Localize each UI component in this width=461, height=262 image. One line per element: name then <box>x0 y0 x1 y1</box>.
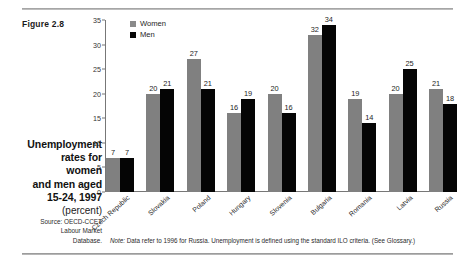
bar-value-label: 14 <box>365 113 373 122</box>
bar-groups: 7720212721161920163234191420252118 <box>106 20 457 192</box>
figure-number-label: Figure 2.8 <box>22 19 64 29</box>
bar-value-label: 32 <box>311 25 319 34</box>
bar-value-label: 19 <box>351 89 359 98</box>
bar-women: 7 <box>106 158 120 192</box>
x-axis-label: Romania <box>348 194 373 218</box>
note-prefix: Note: <box>110 237 125 244</box>
bar-group: 2025 <box>389 20 417 192</box>
bar-women: 20 <box>268 94 282 192</box>
y-tick-mark <box>102 192 105 193</box>
x-axis-label: Russia <box>433 194 453 213</box>
y-tick-mark <box>102 93 105 94</box>
y-tick-mark <box>102 20 105 21</box>
bar-value-label: 16 <box>284 103 292 112</box>
bar-men: 14 <box>362 123 376 192</box>
bar-men: 18 <box>443 104 457 192</box>
x-axis-label: Bulgaria <box>309 194 332 216</box>
bar-value-label: 7 <box>125 148 129 157</box>
x-axis-label: Czech Republic <box>90 194 131 231</box>
y-tick-mark <box>102 142 105 143</box>
bar-women: 32 <box>308 35 322 192</box>
bar-chart: 05101520253035 Women Men 772021272116192… <box>88 14 458 229</box>
figure-page: Figure 2.8 Unemployment rates for women … <box>0 0 461 262</box>
bar-group: 3234 <box>308 20 336 192</box>
bar-value-label: 20 <box>149 84 157 93</box>
x-axis-labels: Czech RepublicSlovakiaPolandHungarySlove… <box>106 194 457 240</box>
bar-men: 21 <box>201 89 215 192</box>
bar-women: 27 <box>187 59 201 192</box>
bar-men: 16 <box>282 113 296 192</box>
x-axis-label: Slovakia <box>147 194 171 217</box>
bar-value-label: 21 <box>204 79 212 88</box>
bar-value-label: 20 <box>392 84 400 93</box>
bar-men: 25 <box>403 69 417 192</box>
bar-value-label: 18 <box>446 94 454 103</box>
note-text: Data refer to 1996 for Russia. Unemploym… <box>125 237 415 244</box>
bar-men: 19 <box>241 99 255 192</box>
y-tick-mark <box>102 44 105 45</box>
figure-note: Note: Data refer to 1996 for Russia. Une… <box>110 237 455 244</box>
bar-women: 16 <box>227 113 241 192</box>
bar-value-label: 16 <box>230 103 238 112</box>
bar-men: 34 <box>322 25 336 192</box>
x-axis-label: Hungary <box>228 194 252 217</box>
bar-group: 77 <box>106 20 134 192</box>
bar-men: 7 <box>120 158 134 192</box>
source-line-3: Database. <box>6 237 102 245</box>
bar-group: 2721 <box>187 20 215 192</box>
bar-value-label: 25 <box>406 59 414 68</box>
bar-value-label: 19 <box>244 89 252 98</box>
bar-women: 21 <box>429 89 443 192</box>
bar-women: 20 <box>389 94 403 192</box>
bar-men: 21 <box>160 89 174 192</box>
bar-value-label: 21 <box>163 79 171 88</box>
bar-women: 20 <box>146 94 160 192</box>
bar-value-label: 21 <box>432 79 440 88</box>
bar-value-label: 20 <box>270 84 278 93</box>
x-axis-label: Latvia <box>395 194 413 212</box>
bottom-divider-rule <box>22 253 453 255</box>
bar-group: 2118 <box>429 20 457 192</box>
bar-group: 1914 <box>348 20 376 192</box>
y-tick-mark <box>102 118 105 119</box>
bar-group: 1619 <box>227 20 255 192</box>
top-divider-rule <box>22 8 453 10</box>
bar-women: 19 <box>348 99 362 192</box>
x-axis-label: Poland <box>191 194 212 214</box>
y-tick-mark <box>102 69 105 70</box>
bar-value-label: 7 <box>111 148 115 157</box>
bar-group: 2021 <box>146 20 174 192</box>
bar-group: 2016 <box>268 20 296 192</box>
bar-value-label: 27 <box>190 49 198 58</box>
y-tick-mark <box>102 167 105 168</box>
bar-value-label: 34 <box>325 15 333 24</box>
x-axis-label: Slovenia <box>268 194 292 217</box>
